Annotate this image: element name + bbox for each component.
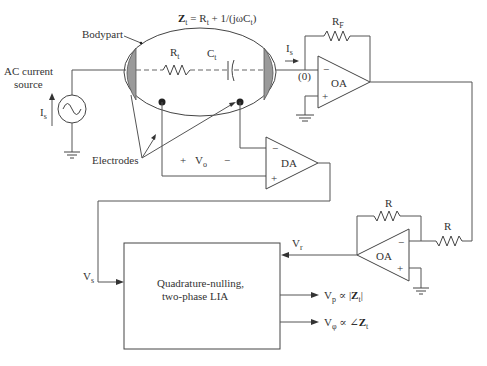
arrow-right-icon [293, 59, 299, 64]
vphi-arrow-icon [311, 319, 319, 325]
right-electrode [264, 48, 273, 100]
virtual-ground-label: (0) [298, 70, 311, 83]
svg-text:−: − [272, 142, 278, 154]
svg-text:OA: OA [376, 250, 392, 262]
vr-arrow-icon [281, 252, 289, 258]
circuit-diagram: Zt = Rt + 1/(jωCt) Bodypart Rt Ct AC cur… [0, 0, 487, 366]
electrode-pointers [131, 95, 236, 158]
oa-bottom-amplifier: − + OA [357, 229, 409, 281]
vo-minus: − [224, 154, 230, 166]
r-input-label: R [444, 220, 452, 232]
bodypart-label: Bodypart [82, 28, 123, 40]
vr-label: Vr [292, 237, 303, 252]
pointer-tip [140, 42, 143, 45]
r-input-resistor-icon [436, 236, 462, 246]
lia-label-line2: two-phase LIA [162, 290, 228, 302]
vo-plus: + [180, 154, 186, 166]
ground-icon [413, 288, 429, 294]
bodypart-outline [124, 28, 276, 116]
svg-text:OA: OA [331, 77, 347, 89]
arrow-up-icon [49, 93, 55, 100]
bodypart [124, 28, 276, 116]
svg-text:−: − [398, 236, 404, 248]
ct-capacitor-plate2-icon [232, 60, 234, 81]
rf-label: RF [332, 15, 344, 30]
left-electrode [127, 48, 136, 100]
rt-resistor-icon [163, 65, 190, 75]
ground-icon [296, 115, 314, 121]
da-amplifier: − + DA [266, 137, 318, 189]
vp-arrow-icon [311, 292, 319, 298]
ac-source-label-1: AC current [4, 65, 53, 77]
svg-text:+: + [397, 262, 403, 274]
ac-source-label-2: source [14, 78, 43, 90]
source-current-label: Is [40, 106, 47, 121]
r-feedback-resistor-icon [374, 211, 400, 221]
svg-text:+: + [271, 172, 277, 184]
vs-arrow-icon [116, 279, 124, 285]
is-label: Is [286, 42, 293, 57]
lia-label-line1: Quadrature-nulling, [157, 277, 244, 289]
output-magnitude: Vp ∝ |Zt| [324, 289, 363, 304]
vo-label: Vo [195, 154, 207, 169]
oa-top-amplifier: − + OA [318, 56, 370, 108]
ground-icon [64, 152, 80, 158]
rf-resistor-icon [324, 31, 350, 41]
bodypart-pointer [124, 36, 141, 43]
svg-text:−: − [323, 63, 329, 75]
r-feedback-label: R [385, 197, 393, 209]
output-phase: Vφ ∝ ∠Zt [324, 316, 369, 331]
sine-wave-source-icon [58, 95, 86, 123]
svg-text:+: + [322, 90, 328, 102]
electrodes-label: Electrodes [92, 154, 138, 166]
rt-label: Rt [170, 46, 180, 61]
ct-label: Ct [207, 47, 217, 62]
svg-text:DA: DA [281, 157, 297, 169]
impedance-formula: Zt = Rt + 1/(jωCt) [178, 12, 257, 27]
vs-label: Vs [83, 270, 94, 285]
